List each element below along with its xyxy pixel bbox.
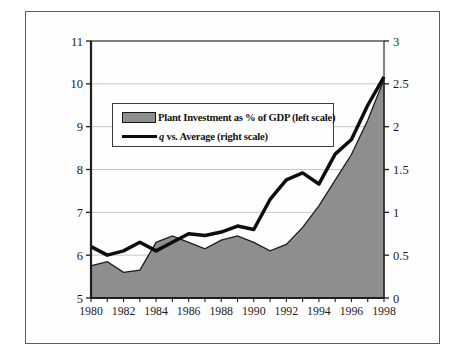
chart-canvas: 56789101100.511.522.53198019821984198619… bbox=[0, 0, 466, 358]
right-axis-tick-label: 3 bbox=[393, 35, 399, 49]
x-axis-tick-label: 1998 bbox=[372, 304, 396, 318]
x-axis-tick-label: 1990 bbox=[242, 304, 266, 318]
right-axis-tick-label: 1.5 bbox=[393, 163, 409, 177]
x-axis-tick-label: 1984 bbox=[144, 304, 168, 318]
x-axis-tick-label: 1996 bbox=[340, 304, 364, 318]
legend-item-q-line: q vs. Average (right scale) bbox=[122, 127, 333, 146]
chart-legend: Plant Investment as % of GDP (left scale… bbox=[112, 103, 334, 147]
x-axis-tick-label: 1992 bbox=[275, 304, 299, 318]
right-axis-tick-label: 2.5 bbox=[393, 77, 409, 91]
left-axis-tick-label: 7 bbox=[77, 206, 83, 220]
legend-label-q-rest: vs. Average (right scale) bbox=[164, 131, 268, 142]
left-axis-tick-label: 6 bbox=[77, 249, 83, 263]
right-axis-tick-label: 2 bbox=[393, 120, 399, 134]
x-axis-tick-label: 1980 bbox=[79, 304, 103, 318]
right-axis-tick-label: 1 bbox=[393, 206, 399, 220]
x-axis-tick-label: 1994 bbox=[307, 304, 331, 318]
line-swatch-icon bbox=[122, 135, 157, 139]
left-axis-tick-label: 10 bbox=[71, 77, 84, 91]
area-swatch-icon bbox=[122, 112, 156, 123]
scanned-chart-figure: 56789101100.511.522.53198019821984198619… bbox=[0, 0, 466, 358]
left-axis-tick-label: 8 bbox=[77, 163, 83, 177]
right-axis-tick-label: 0.5 bbox=[393, 249, 409, 263]
legend-item-plant-investment: Plant Investment as % of GDP (left scale… bbox=[122, 108, 333, 127]
left-axis-tick-label: 11 bbox=[71, 35, 83, 49]
x-axis-tick-label: 1986 bbox=[177, 304, 201, 318]
legend-label-plant-investment: Plant Investment as % of GDP (left scale… bbox=[158, 112, 335, 123]
legend-label-q-line: q vs. Average (right scale) bbox=[159, 131, 268, 142]
left-axis-tick-label: 9 bbox=[77, 120, 83, 134]
x-axis-tick-label: 1982 bbox=[112, 304, 136, 318]
x-axis-tick-label: 1988 bbox=[209, 304, 233, 318]
